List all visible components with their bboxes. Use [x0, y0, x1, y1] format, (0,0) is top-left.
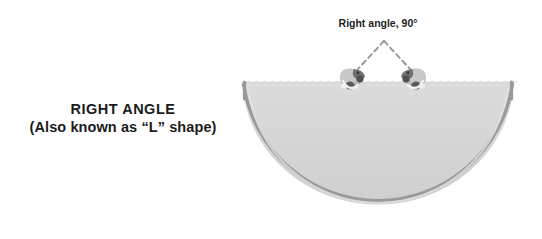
angle-annotation-label: Right angle, 90°: [318, 17, 438, 29]
angle-dashed-lines: [358, 41, 410, 69]
bowl-fill: [243, 82, 513, 205]
diagram-canvas: Right angle, 90° RIGHT ANGLE (Also known…: [0, 0, 542, 239]
caption-title: RIGHT ANGLE: [0, 100, 246, 118]
caption-block: RIGHT ANGLE (Also known as “L” shape): [0, 100, 246, 136]
angle-ray-left: [358, 41, 384, 69]
bowl-shape: [243, 81, 517, 204]
angle-ray-right: [384, 41, 410, 69]
caption-subtitle: (Also known as “L” shape): [0, 118, 246, 136]
